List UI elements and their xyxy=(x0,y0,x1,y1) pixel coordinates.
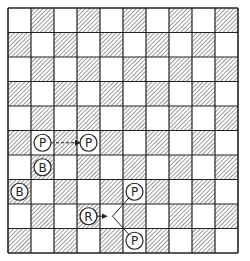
light-square xyxy=(192,204,215,229)
light-square xyxy=(31,82,54,107)
piece-label: B xyxy=(38,161,46,175)
dark-square xyxy=(100,33,123,58)
light-square xyxy=(8,8,31,33)
light-square xyxy=(8,106,31,131)
light-square xyxy=(54,155,77,180)
dark-square xyxy=(169,8,192,33)
dark-square xyxy=(215,155,238,180)
light-square xyxy=(54,8,77,33)
dark-square xyxy=(123,106,146,131)
light-square xyxy=(100,106,123,131)
light-square xyxy=(192,57,215,82)
light-square xyxy=(192,155,215,180)
light-square xyxy=(146,204,169,229)
dark-square xyxy=(8,82,31,107)
dark-square xyxy=(8,33,31,58)
light-square xyxy=(146,106,169,131)
dark-square xyxy=(169,204,192,229)
light-square xyxy=(146,155,169,180)
rook-piece: R xyxy=(80,208,97,225)
dark-square xyxy=(100,229,123,254)
dark-square xyxy=(123,8,146,33)
pawn-piece: P xyxy=(126,183,143,200)
dark-square xyxy=(146,82,169,107)
light-square xyxy=(123,33,146,58)
light-square xyxy=(100,155,123,180)
light-square xyxy=(146,57,169,82)
dark-square xyxy=(100,82,123,107)
light-square xyxy=(192,8,215,33)
bishop-piece: B xyxy=(11,183,28,200)
dark-square xyxy=(8,229,31,254)
light-square xyxy=(123,82,146,107)
dark-square xyxy=(54,33,77,58)
dark-square xyxy=(146,33,169,58)
light-square xyxy=(215,82,238,107)
pawn-piece: P xyxy=(126,232,143,249)
light-square xyxy=(169,180,192,205)
dark-square xyxy=(31,204,54,229)
pawn-piece: P xyxy=(34,134,51,151)
light-square xyxy=(123,131,146,156)
dark-square xyxy=(123,155,146,180)
light-square xyxy=(100,57,123,82)
dark-square xyxy=(54,180,77,205)
light-square xyxy=(215,180,238,205)
light-square xyxy=(169,131,192,156)
dark-square xyxy=(192,33,215,58)
light-square xyxy=(8,204,31,229)
dark-square xyxy=(169,155,192,180)
dark-square xyxy=(192,131,215,156)
light-square xyxy=(77,229,100,254)
light-square xyxy=(31,229,54,254)
dark-square xyxy=(100,180,123,205)
light-square xyxy=(215,33,238,58)
dark-square xyxy=(54,82,77,107)
light-square xyxy=(169,33,192,58)
dark-square xyxy=(215,204,238,229)
dark-square xyxy=(54,229,77,254)
piece-label: R xyxy=(84,210,92,224)
dark-square xyxy=(215,8,238,33)
bishop-piece: B xyxy=(34,159,51,176)
dark-square xyxy=(31,8,54,33)
light-square xyxy=(215,131,238,156)
dark-square xyxy=(77,106,100,131)
light-square xyxy=(192,106,215,131)
piece-label: B xyxy=(15,185,23,199)
dark-square xyxy=(77,57,100,82)
dark-square xyxy=(169,106,192,131)
dark-square xyxy=(215,106,238,131)
dark-square xyxy=(123,57,146,82)
dark-square xyxy=(146,131,169,156)
dark-square xyxy=(31,57,54,82)
light-square xyxy=(8,155,31,180)
light-square xyxy=(77,180,100,205)
light-square xyxy=(169,82,192,107)
light-square xyxy=(54,57,77,82)
light-square xyxy=(169,229,192,254)
dark-square xyxy=(123,204,146,229)
piece-label: P xyxy=(131,234,138,248)
pawn-piece: P xyxy=(80,134,97,151)
dark-square xyxy=(215,57,238,82)
dark-square xyxy=(8,131,31,156)
dark-square xyxy=(169,57,192,82)
dark-square xyxy=(31,106,54,131)
piece-label: P xyxy=(131,185,138,199)
light-square xyxy=(77,82,100,107)
chess-diagram: PPBBRPP xyxy=(0,0,250,261)
light-square xyxy=(8,57,31,82)
dark-square xyxy=(192,229,215,254)
dark-square xyxy=(192,82,215,107)
piece-label: P xyxy=(85,136,92,150)
dark-square xyxy=(100,131,123,156)
light-square xyxy=(54,106,77,131)
dark-square xyxy=(77,155,100,180)
light-square xyxy=(77,33,100,58)
dark-square xyxy=(77,8,100,33)
light-square xyxy=(31,180,54,205)
dark-square xyxy=(146,180,169,205)
dark-square xyxy=(146,229,169,254)
light-square xyxy=(215,229,238,254)
